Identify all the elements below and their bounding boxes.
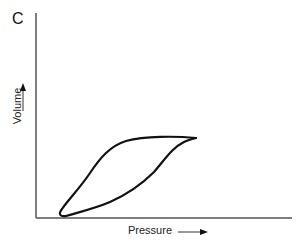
- y-axis-label: Volume: [11, 76, 23, 136]
- x-axis-label: Pressure: [128, 224, 172, 236]
- arrow-right-icon: [178, 229, 208, 235]
- pv-loop-chart: [0, 0, 305, 246]
- lower-limb-curve: [66, 138, 196, 216]
